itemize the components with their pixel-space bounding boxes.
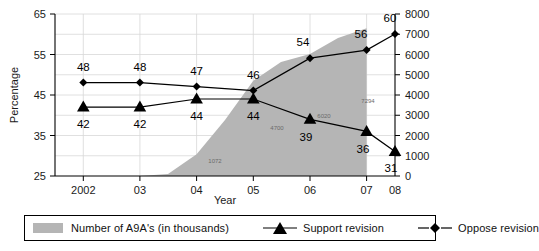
oppose-label-2002: 48 [77, 61, 90, 73]
y-left-tick-35: 35 [34, 130, 46, 142]
x-tick-07: 07 [360, 184, 372, 196]
y-left-tick-45: 45 [34, 89, 46, 101]
legend-item-support: Support revision [263, 221, 384, 235]
legend-label-a9a: Number of A9A's (in thousands) [71, 222, 229, 234]
legend-label-oppose: Oppose revision [458, 222, 539, 234]
y-right-tick-7000: 7000 [405, 28, 429, 40]
oppose-label-07: 56 [355, 28, 368, 40]
oppose-label-06: 54 [297, 36, 310, 48]
x-tick-06: 06 [304, 184, 316, 196]
oppose-label-03: 48 [134, 61, 147, 73]
x-axis-title: Year [214, 194, 237, 204]
y-right-tick-4000: 4000 [405, 89, 429, 101]
legend-label-support: Support revision [303, 222, 384, 234]
oppose-label-08: 60 [384, 12, 397, 24]
y-right-tick-5000: 5000 [405, 69, 429, 81]
diamond-marker-icon [418, 221, 452, 235]
legend-item-oppose: Oppose revision [418, 221, 539, 235]
x-tick-04: 04 [190, 184, 202, 196]
x-axis-ticks [83, 176, 366, 181]
chart-svg: 65 55 45 35 25 8000 7000 6000 5000 4000 [0, 0, 462, 204]
y-right-tick-8000: 8000 [405, 8, 429, 20]
oppose-label-05: 46 [247, 69, 260, 81]
area-label-05: 1072 [208, 158, 222, 164]
x-tick-05: 05 [247, 184, 259, 196]
support-label-07: 36 [357, 143, 370, 155]
oppose-label-04: 47 [190, 65, 203, 77]
y-axis-left-ticks [50, 14, 55, 176]
x-tick-08: 08 [389, 184, 401, 196]
y-right-tick-6000: 6000 [405, 49, 429, 61]
area-label-08: 7294 [361, 98, 375, 104]
area-label-06: 4700 [270, 125, 284, 131]
x-tick-03: 03 [134, 184, 146, 196]
y-left-tick-65: 65 [34, 8, 46, 20]
chart-plot-container: 65 55 45 35 25 8000 7000 6000 5000 4000 [0, 0, 462, 204]
triangle-marker-icon [263, 221, 297, 235]
x-tick-2002: 2002 [71, 184, 95, 196]
y-left-tick-55: 55 [34, 49, 46, 61]
support-label-04: 44 [190, 110, 203, 122]
y-left-tick-25: 25 [34, 170, 46, 182]
y-right-tick-3000: 3000 [405, 109, 429, 121]
y-right-tick-1000: 1000 [405, 150, 429, 162]
y-right-tick-0: 0 [405, 170, 411, 182]
y-axis-title: Percentage [8, 67, 20, 123]
area-swatch-icon [33, 223, 63, 233]
support-label-03: 42 [134, 118, 147, 130]
chart-legend: Number of A9A's (in thousands) Support r… [24, 215, 436, 241]
area-label-07: 6020 [317, 113, 331, 119]
support-label-08: 31 [385, 162, 398, 174]
legend-item-a9a: Number of A9A's (in thousands) [33, 222, 229, 234]
support-label-06: 39 [300, 131, 313, 143]
y-right-tick-2000: 2000 [405, 130, 429, 142]
support-label-05: 44 [247, 110, 260, 122]
support-label-2002: 42 [77, 118, 90, 130]
